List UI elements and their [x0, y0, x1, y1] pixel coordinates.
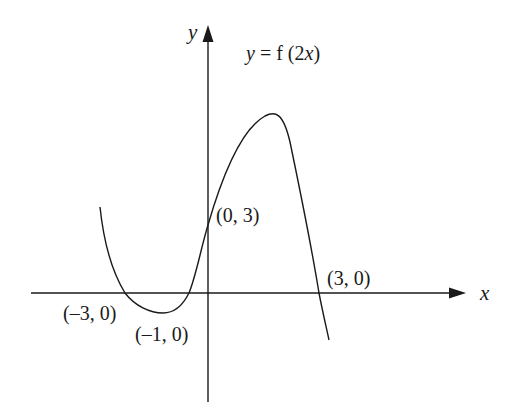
title-suffix: ) [313, 42, 320, 64]
x-axis-arrow-icon [449, 288, 466, 299]
point-label-neg1-0: (–1, 0) [135, 324, 188, 344]
title-prefix: y [246, 42, 255, 64]
point-label-3-0: (3, 0) [327, 268, 370, 288]
function-title: y = f (2x) [246, 43, 320, 63]
title-eq: = f (2 [255, 42, 305, 64]
point-label-0-3: (0, 3) [216, 205, 259, 225]
x-axis-label: x [480, 283, 489, 304]
y-axis-label: y [188, 22, 197, 43]
y-axis-arrow-icon [203, 25, 214, 42]
function-curve [100, 114, 329, 340]
point-label-neg3-0: (–3, 0) [63, 303, 116, 323]
